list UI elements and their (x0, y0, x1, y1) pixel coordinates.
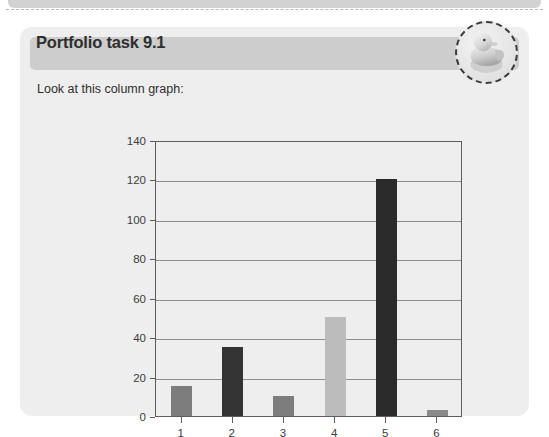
plot-area (155, 141, 462, 417)
x-axis-tick-label: 4 (331, 427, 337, 437)
x-axis-tick-mark (436, 417, 437, 423)
bar-3 (273, 396, 294, 416)
y-axis-tick-label: 0 (112, 411, 146, 423)
x-axis-tick-label: 6 (433, 427, 439, 437)
y-axis-tick-label: 100 (112, 214, 146, 226)
y-axis-tick-label: 80 (112, 253, 146, 265)
y-axis-tick-label: 120 (112, 174, 146, 186)
x-axis-tick-label: 3 (280, 427, 286, 437)
dashed-separator (6, 9, 543, 10)
x-axis-tick-mark (283, 417, 284, 423)
x-axis-tick-mark (232, 417, 233, 423)
bar-1 (171, 386, 192, 416)
y-axis-tick-mark (150, 220, 155, 221)
x-axis-tick-label: 1 (177, 427, 183, 437)
bar-5 (376, 179, 397, 416)
y-axis-tick-mark (150, 417, 155, 418)
gridline (156, 181, 461, 182)
y-axis-tick-label: 140 (112, 135, 146, 147)
y-axis-tick-label: 20 (112, 372, 146, 384)
y-axis-tick-mark (150, 338, 155, 339)
gridline (156, 339, 461, 340)
y-axis-tick-mark (150, 299, 155, 300)
prompt-text: Look at this column graph: (37, 82, 184, 96)
column-graph: 020406080100120140123456 (115, 105, 475, 425)
bar-4 (325, 317, 346, 416)
rubber-duck-badge (455, 21, 518, 84)
bar-6 (427, 410, 448, 416)
portfolio-task-card: Portfolio task 9.1 Look at this column g… (20, 27, 529, 416)
bar-2 (222, 347, 243, 416)
x-axis-tick-label: 5 (382, 427, 388, 437)
gridline (156, 379, 461, 380)
rubber-duck-icon (455, 21, 518, 84)
y-axis-tick-mark (150, 378, 155, 379)
gridline (156, 260, 461, 261)
page-title: Portfolio task 9.1 (36, 33, 165, 52)
y-axis-tick-mark (150, 141, 155, 142)
y-axis-tick-mark (150, 259, 155, 260)
y-axis-tick-mark (150, 180, 155, 181)
y-axis-tick-label: 60 (112, 293, 146, 305)
previous-box-bottom-edge (8, 0, 541, 8)
x-axis-tick-label: 2 (229, 427, 235, 437)
y-axis-tick-label: 40 (112, 332, 146, 344)
gridline (156, 300, 461, 301)
x-axis-tick-mark (385, 417, 386, 423)
x-axis-tick-mark (181, 417, 182, 423)
x-axis-tick-mark (334, 417, 335, 423)
gridline (156, 221, 461, 222)
